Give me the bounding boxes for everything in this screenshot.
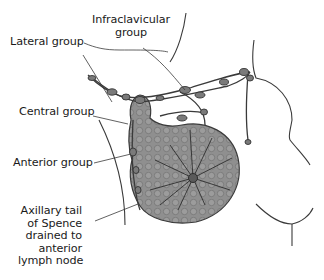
- label-central-group: Central group: [19, 106, 94, 119]
- label-anterior-group: Anterior group: [13, 157, 93, 170]
- label-axillary-tail: Axillary tail of Spence drained to anter…: [18, 205, 82, 268]
- label-line: lymph node: [18, 255, 82, 268]
- label-lateral-group: Lateral group: [10, 36, 84, 49]
- breast: [129, 95, 239, 223]
- label-line: drained to: [18, 230, 82, 243]
- label-line: Axillary tail: [18, 205, 82, 218]
- label-line: group: [92, 27, 170, 40]
- label-line: Infraclavicular: [92, 14, 170, 27]
- diagram-canvas: Infraclavicular group Lateral group Cent…: [0, 0, 324, 280]
- nipple: [189, 174, 198, 183]
- label-infraclavicular-group: Infraclavicular group: [92, 14, 170, 39]
